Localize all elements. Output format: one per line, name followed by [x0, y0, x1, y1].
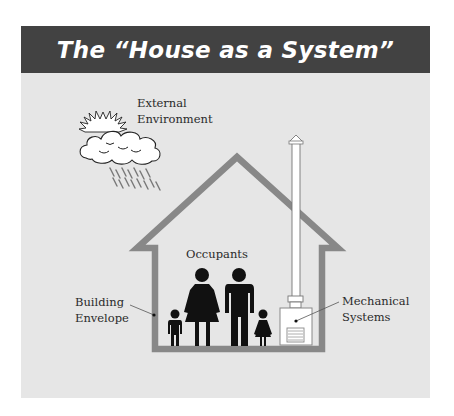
furnace-chimney-icon — [280, 308, 312, 345]
occupants-label: Occupants — [186, 247, 248, 263]
cloud-icon — [80, 131, 160, 164]
mechanical-systems-label: Mechanical Systems — [342, 294, 409, 325]
building-envelope-line-1: Building — [75, 295, 129, 311]
rain-icon — [110, 168, 160, 190]
sun-icon — [79, 111, 127, 132]
boy-figure-icon — [168, 310, 182, 347]
external-environment-line-1: External — [137, 96, 213, 112]
chimney-flue-icon — [288, 135, 303, 308]
family-figures-icon — [168, 268, 272, 346]
external-environment-line-2: Environment — [137, 112, 213, 128]
building-envelope-line-2: Envelope — [75, 311, 129, 327]
diagram-artwork — [0, 0, 454, 416]
building-envelope-label: Building Envelope — [75, 295, 129, 326]
mechanical-systems-line-2: Systems — [342, 310, 409, 326]
external-environment-label: External Environment — [137, 96, 213, 127]
woman-figure-icon — [184, 268, 220, 346]
girl-figure-icon — [254, 310, 272, 347]
man-figure-icon — [225, 268, 254, 346]
mechanical-systems-line-1: Mechanical — [342, 294, 409, 310]
